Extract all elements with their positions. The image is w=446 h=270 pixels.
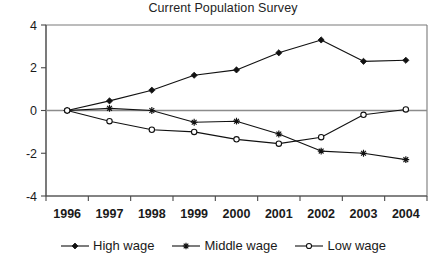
marker-star: [233, 118, 240, 125]
x-tick-label: 2004: [392, 207, 420, 221]
marker-open-circle: [361, 112, 366, 117]
legend-label: Middle wage: [204, 238, 277, 253]
marker-filled-diamond: [403, 57, 409, 63]
marker-star: [275, 131, 282, 138]
marker-filled-diamond: [191, 72, 197, 78]
marker-star: [106, 105, 113, 112]
series-high-wage: [64, 37, 409, 114]
legend-marker-star-icon: [171, 239, 201, 253]
marker-star: [191, 119, 198, 126]
marker-star: [318, 148, 325, 155]
marker-open-circle: [64, 108, 69, 113]
x-tick-label: 1996: [53, 207, 81, 221]
marker-star: [402, 156, 409, 163]
x-tick-label: 1997: [96, 207, 124, 221]
legend-entry-low-wage[interactable]: Low wage: [294, 238, 386, 253]
x-tick-label: 2001: [265, 207, 293, 221]
marker-filled-diamond: [318, 37, 324, 43]
marker-open-circle: [307, 243, 312, 248]
marker-star: [148, 107, 155, 114]
x-axis-tick-labels: 199619971998199920002001200220032004: [53, 207, 420, 221]
marker-open-circle: [149, 127, 154, 132]
x-tick-label: 1999: [180, 207, 208, 221]
y-tick-label: 2: [30, 61, 37, 75]
axis-lines: [41, 25, 427, 201]
y-tick-label: 4: [30, 19, 37, 33]
marker-filled-diamond: [233, 67, 239, 73]
data-series-group: [64, 37, 409, 163]
marker-open-circle: [107, 118, 112, 123]
chart-figure: Current Population Survey 420-2-4 199619…: [0, 0, 446, 270]
legend-label: High wage: [93, 238, 154, 253]
marker-star: [183, 242, 189, 248]
x-tick-label: 2003: [350, 207, 378, 221]
marker-filled-diamond: [106, 98, 112, 104]
y-tick-label: 0: [30, 104, 37, 118]
marker-open-circle: [403, 107, 408, 112]
y-tick-label: -4: [26, 190, 37, 204]
plot-area: 420-2-4 19961997199819992000200120022003…: [0, 0, 446, 270]
series-low-wage: [64, 107, 408, 147]
marker-filled-diamond: [72, 243, 78, 249]
legend-entry-high-wage[interactable]: High wage: [60, 238, 154, 253]
x-tick-label: 1998: [138, 207, 166, 221]
x-tick-label: 2000: [223, 207, 251, 221]
marker-open-circle: [234, 137, 239, 142]
marker-open-circle: [191, 129, 196, 134]
x-tick-label: 2002: [307, 207, 335, 221]
y-axis-tick-labels: 420-2-4: [26, 19, 37, 204]
legend-entry-middle-wage[interactable]: Middle wage: [171, 238, 277, 253]
marker-filled-diamond: [276, 50, 282, 56]
legend-label: Low wage: [327, 238, 386, 253]
marker-star: [360, 150, 367, 157]
marker-open-circle: [318, 135, 323, 140]
marker-filled-diamond: [149, 87, 155, 93]
legend-marker-filled-diamond-icon: [60, 239, 90, 253]
marker-filled-diamond: [360, 58, 366, 64]
marker-open-circle: [276, 141, 281, 146]
series-middle-wage: [64, 105, 409, 163]
y-tick-label: -2: [26, 147, 37, 161]
legend-marker-open-circle-icon: [294, 239, 324, 253]
chart-legend: High wageMiddle wageLow wage: [0, 238, 446, 253]
